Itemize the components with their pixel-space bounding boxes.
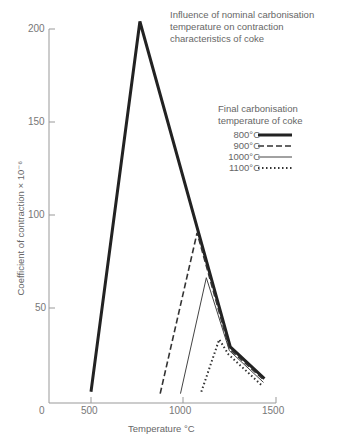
y-axis-label: Coefficient of contraction × 10⁻⁶	[15, 176, 26, 296]
series-line-800	[91, 22, 264, 392]
y-tick-100: 100	[28, 209, 45, 220]
x-axis-label: Temperature °C	[128, 423, 195, 434]
legend-title-2: temperature of coke	[218, 115, 303, 127]
legend-title: Final carbonisation	[218, 103, 303, 115]
legend-item-800: 800°C	[218, 129, 303, 140]
y-tick-200: 200	[28, 23, 45, 34]
legend-item-900: 900°C	[218, 140, 303, 151]
legend: Final carbonisation temperature of coke …	[218, 103, 303, 173]
series-layer	[91, 22, 264, 394]
x-tick-1500: 1500	[262, 405, 284, 416]
legend-item-1100: 1100°C	[218, 162, 303, 173]
chart-plot	[0, 0, 342, 437]
series-line-900	[160, 233, 264, 394]
x-tick-0: 0	[39, 405, 45, 416]
x-tick-500: 500	[81, 405, 98, 416]
x-tick-1000: 1000	[169, 405, 191, 416]
y-tick-50: 50	[35, 302, 46, 313]
chart-title: Influence of nominal carbonisation tempe…	[170, 9, 340, 45]
legend-item-1000: 1000°C	[218, 151, 303, 162]
y-tick-150: 150	[28, 116, 45, 127]
